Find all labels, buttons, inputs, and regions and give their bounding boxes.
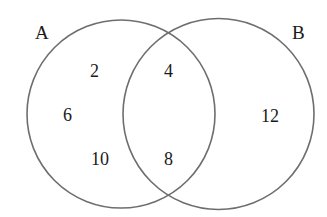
region-a-only-value: 6 <box>63 105 72 125</box>
venn-diagram: A B 2 6 10 4 8 12 <box>0 0 327 217</box>
region-intersection-value: 8 <box>164 149 173 169</box>
region-intersection-value: 4 <box>164 61 173 81</box>
set-b-circle <box>123 19 314 210</box>
region-b-only-value: 12 <box>261 106 279 126</box>
region-a-only-value: 10 <box>91 149 109 169</box>
set-a-circle <box>27 20 215 208</box>
region-a-only-value: 2 <box>90 61 99 81</box>
set-b-label: B <box>292 22 305 43</box>
set-a-label: A <box>35 22 49 43</box>
